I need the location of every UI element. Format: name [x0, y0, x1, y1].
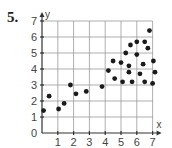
data-point — [151, 59, 156, 64]
y-axis-label: y — [45, 9, 50, 20]
data-point — [68, 83, 73, 88]
data-point — [111, 59, 116, 64]
y-tick-label: 1 — [31, 111, 37, 123]
data-point — [123, 51, 128, 56]
data-point — [112, 76, 117, 81]
data-point — [47, 94, 52, 99]
x-axis-arrow — [157, 131, 162, 136]
data-point — [147, 28, 152, 33]
x-tick-label: 5 — [118, 136, 124, 148]
grid — [42, 21, 153, 133]
y-axis-arrow — [40, 12, 45, 17]
data-point — [134, 52, 139, 57]
x-tick-label: 6 — [134, 136, 140, 148]
data-point — [84, 89, 89, 94]
tick-labels: 123456701234567xy — [31, 9, 162, 148]
y-tick-label: 3 — [31, 79, 37, 91]
x-axis-label: x — [157, 119, 162, 130]
data-point — [120, 79, 125, 84]
y-tick-label: 2 — [31, 95, 37, 107]
data-point — [106, 68, 111, 73]
data-point — [134, 39, 139, 44]
x-tick-label: 2 — [71, 136, 77, 148]
data-point — [142, 79, 147, 84]
data-point — [126, 70, 131, 75]
data-point — [41, 108, 46, 113]
data-point — [100, 84, 105, 89]
data-points — [41, 28, 157, 113]
data-point — [130, 79, 135, 84]
data-point — [145, 46, 150, 51]
x-tick-label: 3 — [86, 136, 92, 148]
x-tick-label: 1 — [55, 136, 61, 148]
data-point — [128, 43, 133, 48]
data-point — [153, 70, 158, 75]
x-tick-label: 4 — [102, 136, 108, 148]
data-point — [141, 62, 146, 67]
data-point — [142, 39, 147, 44]
data-point — [126, 63, 131, 68]
y-tick-label: 4 — [31, 63, 37, 75]
data-point — [150, 81, 155, 86]
data-point — [56, 107, 61, 112]
y-tick-label: 6 — [31, 31, 37, 43]
data-point — [74, 91, 79, 96]
y-tick-label: 5 — [31, 47, 37, 59]
scatter-plot: 123456701234567xy — [0, 0, 172, 148]
data-point — [119, 60, 124, 65]
y-tick-label: 7 — [31, 15, 37, 27]
data-point — [62, 101, 67, 106]
data-point — [138, 71, 143, 76]
x-tick-label: 7 — [150, 136, 156, 148]
y-tick-label: 0 — [31, 127, 37, 139]
